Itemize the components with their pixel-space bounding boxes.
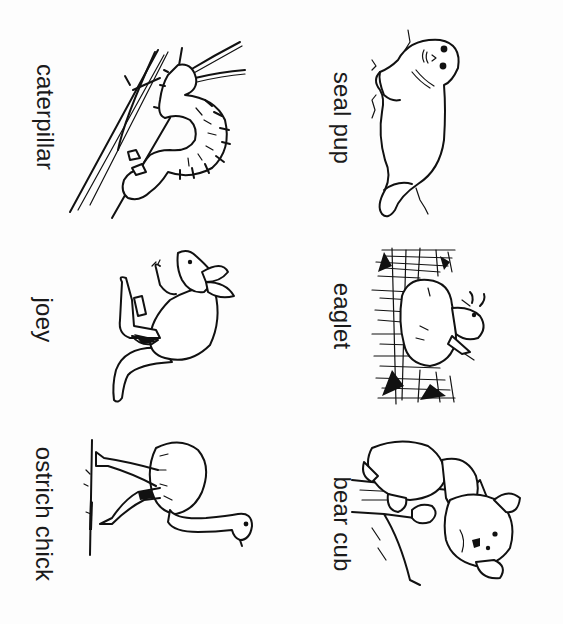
- label-caterpillar: caterpillar: [33, 64, 57, 170]
- label-seal-pup: seal pup: [330, 72, 354, 164]
- label-ostrich-chick: ostrich chick: [32, 447, 56, 582]
- bear-cub-illustration-icon: [362, 438, 532, 598]
- caterpillar-illustration-icon: [60, 35, 260, 220]
- eaglet-illustration-icon: [370, 248, 495, 408]
- label-bear-cub: bear cub: [330, 477, 354, 572]
- card-ostrich-chick: ostrich chick: [0, 410, 280, 624]
- joey-illustration-icon: [108, 248, 238, 408]
- card-joey: joey: [0, 220, 280, 410]
- ostrich-chick-illustration-icon: [80, 438, 260, 570]
- card-seal-pup: seal pup: [280, 0, 563, 220]
- label-joey: joey: [32, 298, 56, 343]
- card-bear-cub: bear cub: [280, 410, 563, 624]
- animal-worksheet: caterpillar: [0, 0, 563, 624]
- card-eaglet: eaglet: [280, 220, 563, 410]
- label-eaglet: eaglet: [330, 283, 354, 350]
- card-caterpillar: caterpillar: [0, 0, 280, 220]
- seal-pup-illustration-icon: [365, 28, 475, 223]
